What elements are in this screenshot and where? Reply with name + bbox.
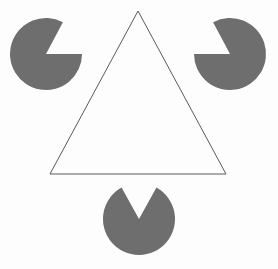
kanizsa-triangle-illustration bbox=[0, 0, 278, 269]
kanizsa-figure-container: Kanizsa Triangle bbox=[0, 0, 278, 269]
